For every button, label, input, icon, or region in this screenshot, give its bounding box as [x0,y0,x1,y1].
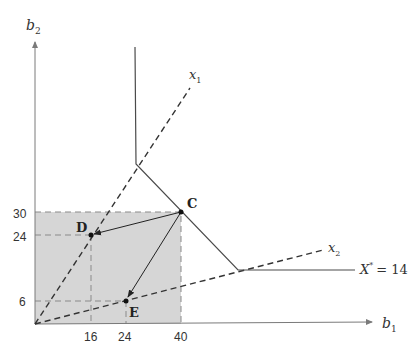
x-tick-16: 16 [84,330,98,344]
point-c [179,210,184,215]
label-c: C [187,196,197,211]
point-d [89,233,94,238]
x-tick-24: 24 [118,330,132,344]
diagram-canvas: C D E b2 b1 x1 x2 X*= 14 30 24 6 16 24 4… [0,0,412,356]
y-tick-24: 24 [13,230,27,244]
y-axis-label: b2 [26,17,41,36]
y-tick-30: 30 [13,207,27,221]
label-d: D [76,220,87,235]
y-tick-6: 6 [19,295,26,309]
ray-x1-label: x1 [189,67,201,85]
x-tick-40: 40 [174,330,188,344]
label-e: E [129,305,139,320]
x-axis-label: b1 [382,315,397,334]
isoquant-label: X*= 14 [359,261,408,277]
shaded-region [35,212,181,324]
ray-x2-label: x2 [328,240,340,258]
point-e [124,299,129,304]
